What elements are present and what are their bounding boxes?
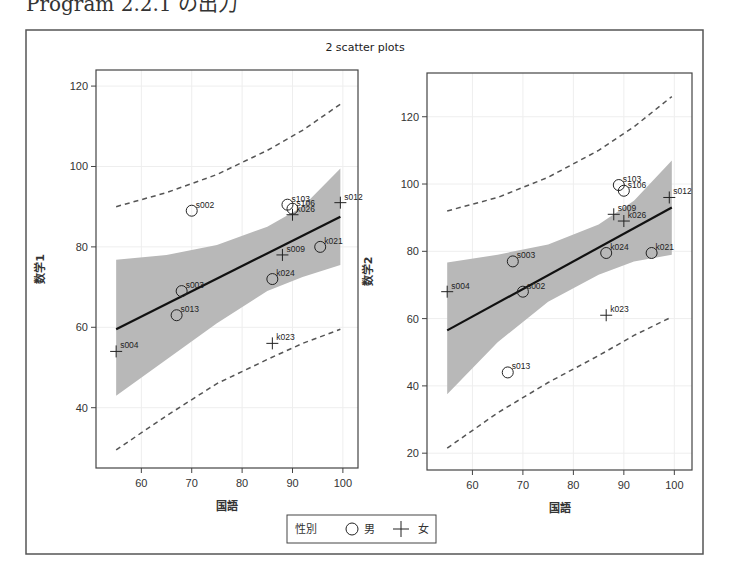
x-tick-label: 70 [517, 479, 529, 491]
legend: 性別 男 女 [287, 515, 436, 543]
point-label: k026 [297, 204, 316, 214]
point-label: k024 [276, 268, 295, 278]
y-tick-label: 60 [407, 313, 419, 325]
x-tick-label: 80 [236, 477, 248, 489]
point-label: s013 [512, 361, 531, 371]
x-tick-label: 90 [286, 477, 298, 489]
x-tick-label: 60 [135, 477, 147, 489]
x-tick-label: 100 [334, 477, 352, 489]
legend-title: 性別 [295, 522, 317, 536]
point-label: s106 [628, 180, 647, 190]
y-tick-label: 40 [407, 380, 419, 392]
point-label: s013 [181, 304, 200, 314]
x-axis-label: 国語 [549, 501, 571, 515]
point-label: k026 [628, 210, 647, 220]
chart-title: 2 scatter plots [325, 41, 405, 54]
y-tick-label: 120 [70, 80, 88, 92]
point-label: s012 [673, 186, 692, 196]
y-tick-label: 40 [76, 402, 88, 414]
legend-label-male: 男 [364, 523, 375, 536]
y-tick-label: 80 [407, 245, 419, 257]
y-axis-label: 数学1 [33, 254, 47, 284]
x-tick-label: 70 [186, 477, 198, 489]
point-label: k024 [610, 242, 629, 252]
y-tick-label: 20 [407, 447, 419, 459]
point-label: s002 [527, 281, 546, 291]
x-axis-label: 国語 [216, 499, 238, 513]
point-label: s004 [120, 340, 139, 350]
point-label: s012 [344, 192, 363, 202]
x-tick-label: 80 [567, 479, 579, 491]
figure: 2 scatter plots s002s003s013s004s103s106… [0, 0, 730, 583]
y-tick-label: 120 [401, 111, 419, 123]
point-label: s003 [186, 280, 205, 290]
point-label: s003 [517, 250, 536, 260]
y-tick-label: 80 [76, 241, 88, 253]
point-label: s004 [451, 281, 470, 291]
point-label: s009 [286, 244, 305, 254]
y-tick-label: 100 [70, 160, 88, 172]
point-label: s002 [196, 200, 215, 210]
y-axis-label: 数学2 [361, 257, 375, 287]
point-label: k021 [656, 242, 675, 252]
y-tick-label: 100 [401, 178, 419, 190]
point-label: k023 [610, 304, 629, 314]
x-tick-label: 90 [618, 479, 630, 491]
point-label: k021 [324, 236, 343, 246]
legend-label-female: 女 [418, 522, 429, 536]
x-tick-label: 60 [466, 479, 478, 491]
point-label: k023 [276, 332, 295, 342]
x-tick-label: 100 [665, 479, 683, 491]
y-tick-label: 60 [76, 321, 88, 333]
